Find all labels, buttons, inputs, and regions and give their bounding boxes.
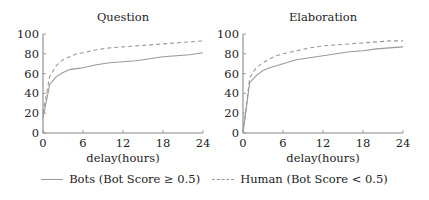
y-tick-label: 60 — [224, 67, 239, 81]
y-tick-label: 0 — [32, 126, 39, 140]
chart-panel-elaboration: Elaboration02040608010006121824delay(hou… — [217, 10, 410, 165]
y-tick-label: 100 — [17, 27, 39, 41]
y-tick-label: 100 — [217, 27, 239, 41]
legend: Bots (Bot Score ≥ 0.5) Human (Bot Score … — [0, 172, 429, 186]
legend-item-human: Human (Bot Score < 0.5) — [212, 172, 388, 186]
x-tick-label: 24 — [196, 136, 211, 150]
x-tick-label: 18 — [156, 136, 171, 150]
chart-canvas: Question02040608010006121824delay(hours)… — [0, 0, 429, 200]
human-series-line — [243, 41, 403, 133]
y-tick-label: 20 — [224, 106, 239, 120]
solid-line-icon — [41, 179, 63, 180]
chart-title: Question — [97, 10, 150, 24]
x-tick-label: 0 — [239, 136, 246, 150]
x-tick-label: 6 — [79, 136, 86, 150]
x-tick-label: 0 — [39, 136, 46, 150]
x-tick-label: 18 — [356, 136, 371, 150]
legend-label-bots: Bots (Bot Score ≥ 0.5) — [69, 172, 200, 186]
bots-series-line — [43, 53, 203, 118]
y-tick-label: 40 — [224, 86, 239, 100]
legend-item-bots: Bots (Bot Score ≥ 0.5) — [41, 172, 200, 186]
y-tick-label: 80 — [224, 47, 239, 61]
y-tick-label: 80 — [24, 47, 39, 61]
chart-panel-question: Question02040608010006121824delay(hours) — [17, 10, 210, 165]
x-tick-label: 12 — [116, 136, 131, 150]
legend-label-human: Human (Bot Score < 0.5) — [240, 172, 388, 186]
x-tick-label: 6 — [279, 136, 286, 150]
x-tick-label: 12 — [316, 136, 331, 150]
y-tick-label: 60 — [24, 67, 39, 81]
y-tick-label: 40 — [24, 86, 39, 100]
x-axis-label: delay(hours) — [286, 151, 359, 165]
y-tick-label: 0 — [232, 126, 239, 140]
y-tick-label: 20 — [24, 106, 39, 120]
x-axis-label: delay(hours) — [86, 151, 159, 165]
chart-title: Elaboration — [289, 10, 358, 24]
human-series-line — [43, 41, 203, 113]
x-tick-label: 24 — [396, 136, 411, 150]
dashed-line-icon — [212, 179, 234, 180]
